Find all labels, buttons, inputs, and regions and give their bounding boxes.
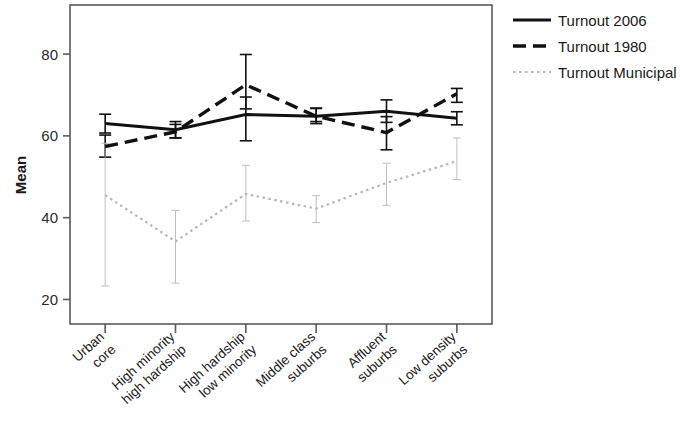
x-tick-label: Urbancore — [70, 329, 119, 377]
x-tick-label: High hardshiplow minority — [176, 329, 260, 409]
y-tick-label: 60 — [41, 127, 58, 144]
x-tick-label: Low densitysuburbs — [396, 329, 471, 401]
y-tick-label: 80 — [41, 46, 58, 63]
chart-legend: Turnout 2006Turnout 1980Turnout Municipa… — [513, 12, 677, 81]
legend-label-3: Turnout Municipal — [558, 64, 677, 81]
x-tick-label: High minorityhigh hardship — [107, 329, 189, 407]
y-tick-label: 20 — [41, 291, 58, 308]
y-axis: 20406080 — [41, 46, 70, 308]
y-tick-label: 40 — [41, 209, 58, 226]
legend-label-2: Turnout 1980 — [558, 38, 647, 55]
x-tick-label: Affluentsuburbs — [343, 329, 400, 385]
x-tick-label: Middle classsuburbs — [253, 329, 330, 403]
legend-label-1: Turnout 2006 — [558, 12, 647, 29]
y-axis-title: Mean — [12, 156, 29, 194]
x-axis: UrbancoreHigh minorityhigh hardshipHigh … — [70, 324, 471, 409]
plot-frame — [70, 5, 492, 324]
plot-area-border — [70, 5, 492, 324]
chart-figure: 20406080 UrbancoreHigh minorityhigh hard… — [0, 0, 681, 443]
